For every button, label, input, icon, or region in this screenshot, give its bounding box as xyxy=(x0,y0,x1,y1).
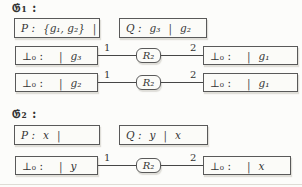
process-left-term: y xyxy=(149,129,155,141)
group-1-label: 𝔊₁ : xyxy=(12,1,37,15)
bottom-symbol: ⊥₀ : xyxy=(22,77,43,89)
edge-line-1 xyxy=(98,55,136,56)
edge-line-2 xyxy=(161,55,203,56)
process-name: P : xyxy=(21,22,35,34)
parallel-bar: | xyxy=(57,129,61,141)
process-right-term: g₃ xyxy=(71,50,82,62)
group-1-row-2-right-box: ⊥₀ :|g₁ xyxy=(203,73,298,92)
process-name: Q : xyxy=(126,22,141,34)
process-left-term: g₃ xyxy=(149,22,160,34)
edge-2-label: 2 xyxy=(190,69,196,80)
parallel-bar: | xyxy=(247,160,251,172)
edge-line-2 xyxy=(161,82,203,83)
edge-2-label: 2 xyxy=(190,42,196,53)
bottom-symbol: ⊥₀ : xyxy=(210,77,231,89)
edge-line-2 xyxy=(161,165,203,166)
group-1-q-box: Q :g₃|g₂ xyxy=(119,18,207,38)
bottom-symbol: ⊥₀ : xyxy=(210,160,231,172)
relation-node-r2: R₂ xyxy=(136,158,161,173)
parallel-bar: | xyxy=(247,77,251,89)
edge-2-label: 2 xyxy=(190,152,196,163)
relation-label: R₂ xyxy=(143,50,155,61)
edge-1-label: 1 xyxy=(104,152,110,163)
group-1-row-1-right-box: ⊥₀ :|g₁ xyxy=(203,46,298,65)
edge-1-label: 1 xyxy=(104,69,110,80)
process-right-term: g₁ xyxy=(259,77,270,89)
relation-node-r2: R₂ xyxy=(136,48,161,63)
bottom-symbol: ⊥₀ : xyxy=(22,50,43,62)
edge-1-label: 1 xyxy=(104,42,110,53)
process-name: P : xyxy=(21,129,35,141)
parallel-bar: | xyxy=(59,160,63,172)
group-2-label: 𝔊₂ : xyxy=(12,107,37,121)
parallel-bar: | xyxy=(93,22,97,34)
parallel-bar: | xyxy=(247,50,251,62)
group-1-row-1-left-box: ⊥₀ :|g₃ xyxy=(15,46,98,65)
bottom-symbol: ⊥₀ : xyxy=(22,160,43,172)
page-rule xyxy=(0,184,302,185)
process-name: Q : xyxy=(126,129,141,141)
parallel-bar: | xyxy=(168,22,172,34)
relation-node-r2: R₂ xyxy=(136,75,161,90)
group-2-q-box: Q :y|x xyxy=(119,125,208,145)
edge-line-1 xyxy=(98,82,136,83)
figure-canvas: 𝔊₁ : P :{g₁, g₂}| Q :g₃|g₂ ⊥₀ :|g₃ 1 R₂ … xyxy=(0,0,302,187)
process-right-term: y xyxy=(71,160,77,172)
bottom-symbol: ⊥₀ : xyxy=(210,50,231,62)
relation-label: R₂ xyxy=(143,160,155,171)
process-right-term: x xyxy=(259,160,265,172)
group-2-p-box: P :x| xyxy=(14,125,100,145)
group-1-p-box: P :{g₁, g₂}| xyxy=(14,18,100,38)
group-2-row-1-left-box: ⊥₀ :|y xyxy=(15,156,98,175)
group-1-row-2-left-box: ⊥₀ :|g₂ xyxy=(15,73,98,92)
group-2-row-1-right-box: ⊥₀ :|x xyxy=(203,156,291,175)
process-right-term: g₁ xyxy=(259,50,270,62)
edge-line-1 xyxy=(98,165,136,166)
relation-label: R₂ xyxy=(143,77,155,88)
process-right-term: x xyxy=(175,129,181,141)
parallel-bar: | xyxy=(59,50,63,62)
process-right-term: g₂ xyxy=(71,77,82,89)
parallel-bar: | xyxy=(59,77,63,89)
process-left-term: {g₁, g₂} xyxy=(43,22,85,34)
process-right-term: g₂ xyxy=(180,22,191,34)
process-left-term: x xyxy=(43,129,49,141)
parallel-bar: | xyxy=(163,129,167,141)
